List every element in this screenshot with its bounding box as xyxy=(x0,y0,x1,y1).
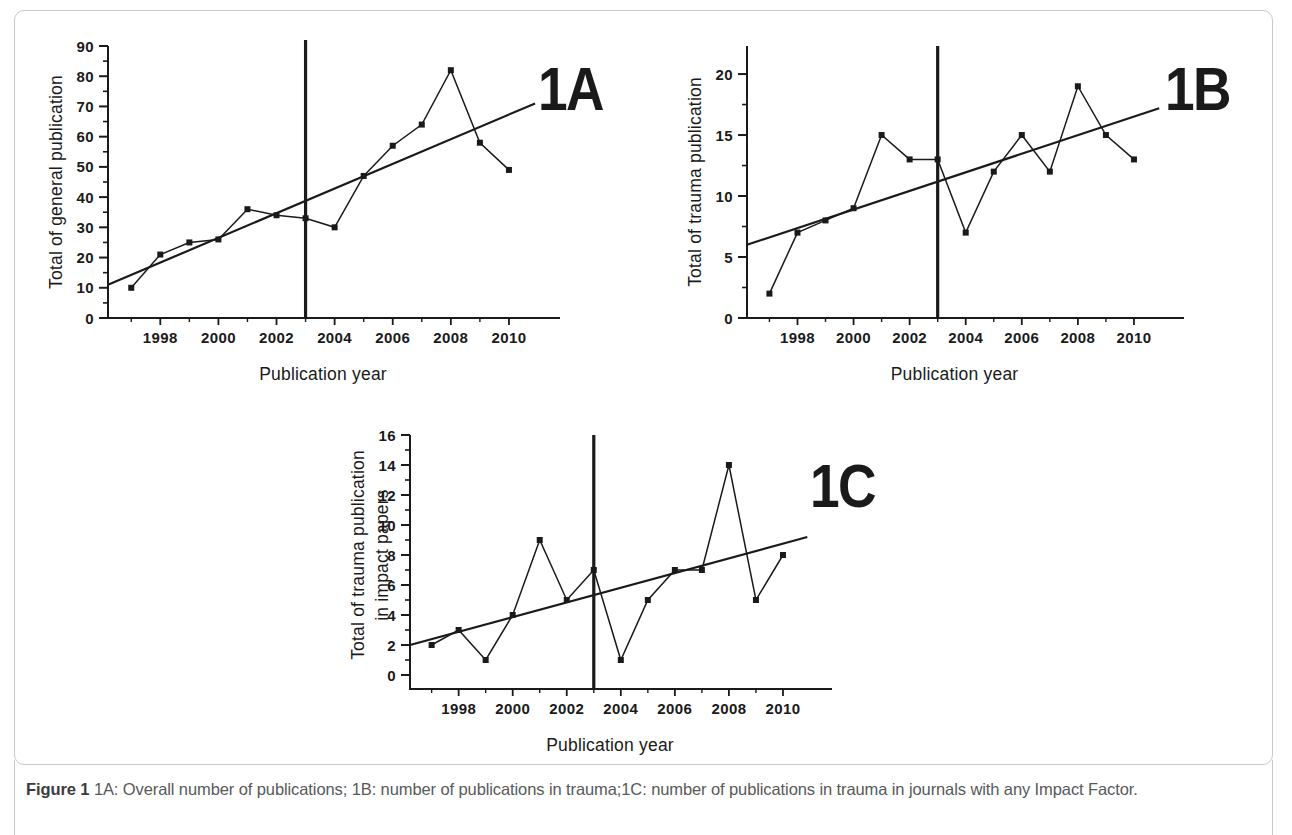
panel-tag-1b: 1B xyxy=(1165,54,1230,123)
figure-left-rule xyxy=(14,760,15,835)
x-tick-label: 2006 xyxy=(1004,329,1039,346)
data-point-marker xyxy=(244,206,250,212)
data-point-marker xyxy=(753,597,759,603)
x-tick-label: 2000 xyxy=(836,329,871,346)
panel-tag-1c: 1C xyxy=(810,451,876,520)
data-point-marker xyxy=(429,642,435,648)
data-point-marker xyxy=(672,567,678,573)
data-point-marker xyxy=(963,230,969,236)
data-point-marker xyxy=(215,236,221,242)
y-tick-label: 14 xyxy=(379,457,397,474)
data-series-line xyxy=(432,465,783,660)
y-tick-label: 10 xyxy=(716,188,734,205)
data-point-marker xyxy=(1131,156,1137,162)
trend-line xyxy=(747,108,1159,245)
figure-caption: Figure 1 1A: Overall number of publicati… xyxy=(26,776,1266,802)
y-tick-label: 0 xyxy=(387,667,396,684)
data-point-marker xyxy=(564,597,570,603)
figure-caption-text: 1A: Overall number of publications; 1B: … xyxy=(94,780,1138,798)
x-tick-label: 2006 xyxy=(657,700,692,717)
y-tick-label: 60 xyxy=(77,128,95,145)
y-tick-label: 2 xyxy=(387,637,396,654)
y-tick-label: 90 xyxy=(77,38,95,55)
chart-svg-1c: 0246810121416199820002002200420062008201… xyxy=(300,415,1000,755)
data-point-marker xyxy=(907,156,913,162)
y-tick-label: 5 xyxy=(724,249,733,266)
data-point-marker xyxy=(780,552,786,558)
y-tick-label: 20 xyxy=(716,66,734,83)
y-tick-label: 40 xyxy=(77,189,95,206)
chart-panel-1a: 0102030405060708090199820002002200420062… xyxy=(18,18,648,403)
data-point-marker xyxy=(361,173,367,179)
y-axis-title: Total of general publication xyxy=(46,75,66,289)
y-tick-label: 0 xyxy=(85,310,94,327)
y-tick-label: 16 xyxy=(379,427,397,444)
x-tick-label: 2004 xyxy=(948,329,983,346)
y-axis-title: Total of trauma publication xyxy=(348,450,368,660)
x-tick-label: 1998 xyxy=(780,329,815,346)
x-tick-label: 2002 xyxy=(259,329,294,346)
data-point-marker xyxy=(794,230,800,236)
data-point-marker xyxy=(851,205,857,211)
figure-caption-label: Figure 1 xyxy=(26,780,89,798)
data-point-marker xyxy=(766,291,772,297)
data-point-marker xyxy=(699,567,705,573)
y-tick-label: 15 xyxy=(716,127,734,144)
data-point-marker xyxy=(390,143,396,149)
x-tick-label: 2008 xyxy=(711,700,746,717)
chart-panel-1c: 0246810121416199820002002200420062008201… xyxy=(300,415,1000,755)
y-tick-label: 20 xyxy=(77,249,95,266)
x-tick-label: 2004 xyxy=(317,329,352,346)
data-point-marker xyxy=(1019,132,1025,138)
x-axis-title: Publication year xyxy=(259,364,387,384)
x-tick-label: 2010 xyxy=(491,329,526,346)
data-point-marker xyxy=(157,252,163,258)
data-point-marker xyxy=(456,627,462,633)
y-tick-label: 80 xyxy=(77,68,95,85)
data-point-marker xyxy=(1075,83,1081,89)
chart-panel-1b: 051015201998200020022004200620082010Publ… xyxy=(665,18,1280,403)
data-point-marker xyxy=(1103,132,1109,138)
data-point-marker xyxy=(506,167,512,173)
y-axis-title: Total of trauma publication xyxy=(685,77,705,287)
data-series-line xyxy=(769,86,1134,293)
data-point-marker xyxy=(274,212,280,218)
data-point-marker xyxy=(419,122,425,128)
y-tick-label: 70 xyxy=(77,98,95,115)
data-point-marker xyxy=(332,224,338,230)
data-point-marker xyxy=(477,140,483,146)
y-tick-label: 50 xyxy=(77,158,95,175)
data-point-marker xyxy=(483,657,489,663)
y-tick-label: 0 xyxy=(724,310,733,327)
y-tick-label: 30 xyxy=(77,219,95,236)
x-tick-label: 2000 xyxy=(495,700,530,717)
data-point-marker xyxy=(128,285,134,291)
data-series-line xyxy=(131,70,509,288)
data-point-marker xyxy=(537,537,543,543)
x-tick-label: 2008 xyxy=(1060,329,1095,346)
data-point-marker xyxy=(1047,169,1053,175)
data-point-marker xyxy=(618,657,624,663)
data-point-marker xyxy=(448,67,454,73)
x-tick-label: 2002 xyxy=(892,329,927,346)
data-point-marker xyxy=(823,217,829,223)
x-tick-label: 2010 xyxy=(765,700,800,717)
data-point-marker xyxy=(726,462,732,468)
x-tick-label: 1998 xyxy=(441,700,476,717)
data-point-marker xyxy=(186,239,192,245)
data-point-marker xyxy=(645,597,651,603)
y-tick-label: 10 xyxy=(77,279,95,296)
y-axis-title: in impact papers xyxy=(372,489,392,621)
data-point-marker xyxy=(991,169,997,175)
x-tick-label: 2008 xyxy=(433,329,468,346)
x-tick-label: 2004 xyxy=(603,700,638,717)
chart-svg-1a: 0102030405060708090199820002002200420062… xyxy=(18,18,648,403)
x-tick-label: 2002 xyxy=(549,700,584,717)
x-tick-label: 2010 xyxy=(1116,329,1151,346)
figure-right-rule xyxy=(1272,760,1273,835)
x-tick-label: 2006 xyxy=(375,329,410,346)
trend-line xyxy=(410,537,807,645)
data-point-marker xyxy=(510,612,516,618)
trend-line xyxy=(108,103,535,284)
panel-tag-1a: 1A xyxy=(538,54,604,123)
